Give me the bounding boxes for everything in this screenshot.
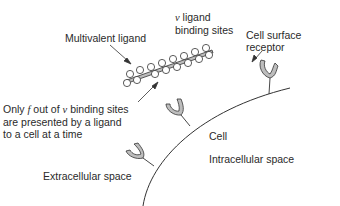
text-line2: are presented by a ligand xyxy=(3,116,122,128)
text-out-of: out of xyxy=(30,103,62,115)
label-csr-line1: Cell surface xyxy=(246,29,301,41)
label-csr-line2: receptor xyxy=(246,41,285,53)
label-cell-surface-receptor: Cell surface receptor xyxy=(246,29,301,53)
arrow-multivalent-ligand xyxy=(110,45,131,64)
label-binding-sites: ν ligand binding sites xyxy=(175,11,233,36)
label-multivalent-ligand: Multivalent ligand xyxy=(65,32,146,44)
text-only: Only xyxy=(3,103,28,115)
label-intracellular-space: Intracellular space xyxy=(209,153,294,165)
multivalent-ligand-icon xyxy=(123,44,213,86)
label-only-f-of-nu: Only f out of ν binding sites are presen… xyxy=(3,103,129,140)
receptor-middle-icon xyxy=(166,99,190,126)
receptor-lower-icon xyxy=(126,143,154,166)
arrow-binding-sites xyxy=(138,82,158,102)
label-extracellular-space: Extracellular space xyxy=(43,170,132,182)
label-binding-sites-line1: ligand xyxy=(180,11,211,23)
diagram-canvas: Multivalent ligand ν ligand binding site… xyxy=(0,0,340,206)
receptor-top-right-icon xyxy=(260,60,278,94)
label-cell: Cell xyxy=(209,130,227,142)
text-line3: to a cell at a time xyxy=(3,128,82,140)
label-binding-sites-line2: binding sites xyxy=(175,24,233,36)
cell-membrane xyxy=(143,88,290,206)
text-binding-sites: binding sites xyxy=(67,103,128,115)
